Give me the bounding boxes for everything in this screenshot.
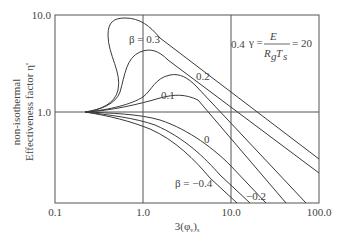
x-tick-10: 10.0 — [221, 206, 241, 218]
curve-beta-neg0.4 — [85, 112, 237, 203]
effectiveness-factor-chart: β = 0.3 0.4 0.2 0.1 0 β = −0.4 −0.2 γ = … — [0, 0, 343, 237]
x-tick-100: 100.0 — [307, 206, 332, 218]
curve-beta-0.4 — [85, 18, 319, 159]
label-beta-0.3: β = 0.3 — [129, 33, 161, 45]
y-axis-title-line1: non-isothermal — [10, 79, 22, 146]
gamma-lhs: γ = — [248, 36, 263, 48]
label-beta-neg0.2: −0.2 — [246, 190, 266, 202]
y-axis-title: non-isothermal Effectiveness factor η' — [10, 63, 35, 161]
gamma-denominator-t: T — [276, 47, 283, 59]
gamma-denominator-s: s — [283, 50, 287, 62]
x-tick-1: 1.0 — [136, 206, 150, 218]
label-beta-0.1: 0.1 — [161, 89, 175, 101]
curve-beta-neg0.2 — [85, 112, 250, 203]
label-beta-0.2: 0.2 — [196, 70, 210, 82]
y-tick-1: 1.0 — [37, 106, 51, 118]
curves — [85, 18, 319, 203]
y-axis-title-line2: Effectiveness factor η' — [23, 63, 35, 161]
x-tick-0.1: 0.1 — [48, 206, 62, 218]
gamma-numerator: E — [269, 30, 277, 42]
label-beta-neg0.4: β = −0.4 — [175, 177, 213, 189]
x-axis-title: 3(φv)s — [175, 220, 200, 233]
y-tick-10: 10.0 — [32, 9, 52, 21]
label-beta-0: 0 — [204, 133, 210, 145]
gamma-rhs: = 20 — [292, 37, 312, 49]
gamma-annotation: γ = E R g T s = 20 — [248, 30, 312, 62]
gamma-denominator-r: R — [263, 47, 271, 59]
label-beta-0.4: 0.4 — [231, 38, 245, 50]
curve-beta-0 — [85, 112, 266, 203]
